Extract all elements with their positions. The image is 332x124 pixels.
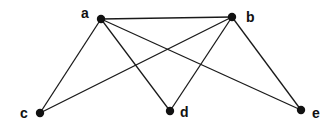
node-a bbox=[97, 15, 105, 23]
node-label-c: c bbox=[20, 105, 28, 121]
node-d bbox=[166, 107, 174, 115]
node-label-e: e bbox=[312, 105, 320, 121]
node-label-a: a bbox=[81, 5, 89, 21]
graph-canvas: abcde bbox=[0, 0, 332, 124]
edges-group bbox=[40, 17, 301, 113]
node-b bbox=[228, 13, 236, 21]
edge-b-d bbox=[170, 17, 232, 111]
graph-diagram: abcde bbox=[0, 0, 332, 124]
edge-b-e bbox=[232, 17, 301, 110]
node-e bbox=[297, 106, 305, 114]
node-label-b: b bbox=[246, 9, 255, 25]
edge-a-c bbox=[40, 19, 101, 113]
node-c bbox=[36, 109, 44, 117]
edge-a-b bbox=[101, 17, 232, 19]
node-label-d: d bbox=[180, 104, 189, 120]
nodes-group: abcde bbox=[20, 5, 320, 121]
